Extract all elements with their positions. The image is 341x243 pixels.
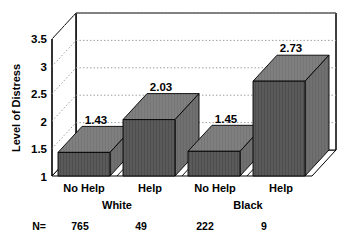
y-tick-2-5: 2.5 [31,88,48,100]
n-value-2: 222 [196,220,214,232]
group-label-black: Black [233,199,263,211]
bar-front-face [188,151,240,176]
category-label-3: Help [269,182,293,194]
value-label-black-no-help: 1.45 [215,113,238,125]
y-tick-1-5: 1.5 [31,143,48,155]
n-value-3: 9 [261,220,267,232]
value-label-white-no-help: 1.43 [85,114,107,126]
y-tick-3: 3 [41,61,47,73]
y-tick-1: 1 [41,171,48,183]
category-label-2: No Help [194,182,236,194]
bar-front-face [58,152,110,176]
value-label-white-help: 2.03 [150,81,172,93]
value-label-black-help: 2.73 [280,42,302,54]
y-tick-2: 2 [41,116,47,128]
category-label-0: No Help [63,182,105,194]
bar-chart-3d: 1 1.5 2 2.5 3 3.5 Level of Distress [0,0,341,243]
n-value-0: 765 [71,220,89,232]
bar-black-help [253,55,329,176]
bar-front-face [253,81,305,176]
group-label-white: White [102,199,132,211]
category-label-1: Help [138,182,162,194]
y-axis-title: Level of Distress [10,64,22,152]
y-tick-3-5: 3.5 [31,33,48,45]
n-row-label: N= [32,220,46,232]
n-value-1: 49 [135,220,147,232]
bar-front-face [123,120,175,176]
